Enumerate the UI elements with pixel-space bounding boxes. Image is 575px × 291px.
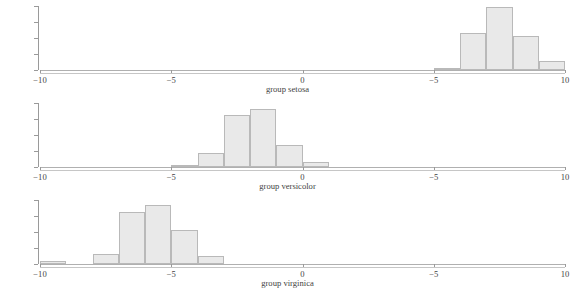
x-axis-tick-mark (171, 70, 172, 73)
histogram-bar (198, 256, 224, 264)
x-axis-tick-mark (40, 264, 41, 267)
y-axis-tick-mark (34, 70, 38, 71)
x-axis-tick-mark (303, 167, 304, 170)
plot-area (40, 4, 565, 70)
x-axis-baseline (40, 73, 565, 74)
histogram-bar (276, 145, 302, 167)
y-axis: 0.00.10.20.30.4 (0, 101, 40, 167)
x-axis-tick-mark (434, 167, 435, 170)
x-axis-tick-mark (303, 70, 304, 73)
y-axis-tick-mark (34, 264, 38, 265)
histogram-bar (539, 61, 565, 70)
x-axis-baseline (40, 170, 565, 171)
y-axis-tick-mark (34, 232, 38, 233)
y-axis-tick-mark (34, 167, 38, 168)
x-axis-tick-mark (40, 167, 41, 170)
plot-area (40, 101, 565, 167)
y-axis-tick-mark (34, 38, 38, 39)
histogram-bar (145, 205, 171, 264)
histogram-bar (250, 109, 276, 167)
histogram-bar (460, 33, 486, 70)
x-axis-baseline (40, 267, 565, 268)
x-axis-tick-mark (565, 167, 566, 170)
panel-title: group setosa (0, 84, 575, 94)
histogram-bar (119, 212, 145, 264)
histogram-panel: 0.00.10.20.30.4−10−50−510group virginica (0, 194, 575, 291)
histogram-panel: 0.00.10.20.30.4−10−50−510group setosa (0, 0, 575, 97)
y-axis-tick-mark (34, 6, 38, 7)
y-axis-spine (38, 6, 39, 70)
y-axis-tick-labels: 0.00.10.20.30.4 (0, 101, 2, 167)
y-axis-tick-mark (34, 103, 38, 104)
histogram-bar (171, 230, 197, 264)
x-axis-tick-mark (40, 70, 41, 73)
histogram-bar (513, 36, 539, 70)
y-axis-tick-mark (34, 200, 38, 201)
y-axis-tick-mark (34, 151, 38, 152)
x-axis-tick-mark (171, 264, 172, 267)
y-axis: 0.00.10.20.30.4 (0, 198, 40, 264)
y-axis-tick-mark (34, 22, 38, 23)
histogram-bar (486, 7, 512, 70)
y-axis-tick-mark (34, 216, 38, 217)
histogram-panel: 0.00.10.20.30.4−10−50−510group versicolo… (0, 97, 575, 194)
histogram-bar (198, 153, 224, 167)
y-axis-spine (38, 200, 39, 264)
histogram-bar (224, 115, 250, 167)
y-axis-tick-mark (34, 135, 38, 136)
y-axis-tick-mark (34, 119, 38, 120)
x-axis-tick-mark (434, 70, 435, 73)
x-axis-tick-mark (565, 70, 566, 73)
y-axis-spine (38, 103, 39, 167)
plot-area (40, 198, 565, 264)
x-axis-tick-mark (303, 264, 304, 267)
x-axis-tick-mark (565, 264, 566, 267)
panel-title: group virginica (0, 278, 575, 288)
y-axis-tick-mark (34, 54, 38, 55)
histogram-figure: { "figure": { "background": "#ffffff", "… (0, 0, 575, 291)
x-axis-tick-mark (171, 167, 172, 170)
y-axis: 0.00.10.20.30.4 (0, 4, 40, 70)
y-axis-tick-mark (34, 248, 38, 249)
histogram-bar (93, 254, 119, 264)
panel-title: group versicolor (0, 181, 575, 191)
x-axis-tick-mark (434, 264, 435, 267)
y-axis-tick-labels: 0.00.10.20.30.4 (0, 198, 2, 264)
y-axis-tick-labels: 0.00.10.20.30.4 (0, 4, 2, 70)
